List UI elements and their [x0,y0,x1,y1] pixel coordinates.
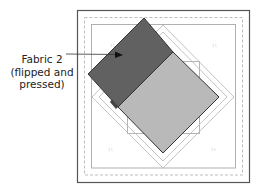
fabric-2-callout: Fabric 2 (flipped and pressed) [2,53,82,91]
corner-label-bottom-right: 11 [211,147,217,152]
callout-line-1: Fabric 2 [2,53,82,66]
callout-line-3: pressed) [2,78,82,91]
paper-piecing-diagram: 11 11 11 11 [0,0,262,193]
corner-label-top-right: 11 [212,43,218,48]
corner-label-bottom-left: 11 [108,147,114,152]
callout-line-2: (flipped and [2,66,82,79]
